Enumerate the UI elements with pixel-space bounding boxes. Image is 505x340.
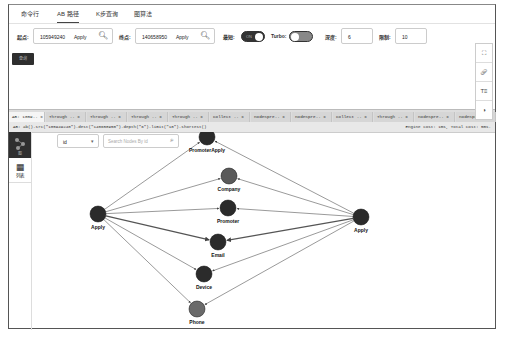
query-tab[interactable]: Through .. x xyxy=(169,112,209,122)
tab-ab-path[interactable]: AB 路径 xyxy=(57,9,79,23)
start-label: 起点: xyxy=(17,33,29,40)
turbo-toggle[interactable] xyxy=(289,31,313,42)
end-label: 终点: xyxy=(119,33,131,40)
graph-svg[interactable]: ApplyApplyPromoterApplyCompanyPromoterEm… xyxy=(31,132,493,330)
snapshot-icon[interactable]: ◑ xyxy=(476,101,492,119)
graph-canvas[interactable]: ApplyApplyPromoterApplyCompanyPromoterEm… xyxy=(31,132,493,334)
sidebar-item-table[interactable]: ▦ 列表 xyxy=(9,160,31,183)
tab-k-step-query[interactable]: K步查询 xyxy=(96,9,118,18)
graph-edge[interactable] xyxy=(106,208,219,213)
query-tab[interactable]: Through .. x xyxy=(46,112,86,122)
graph-edge[interactable] xyxy=(105,142,200,209)
query-tab[interactable]: Collect .. x xyxy=(333,112,373,122)
query-tab[interactable]: nodeSpre.. x xyxy=(415,112,455,122)
svg-text:Promoter: Promoter xyxy=(217,218,239,224)
query-form: 起点: 105949240 Apply 🔍︎ 终点: 140658950 App… xyxy=(9,27,495,47)
app-window: 命令行 AB 路径 K步查询 图算法 起点: 105949240 Apply 🔍… xyxy=(8,4,496,329)
search-icon[interactable]: ⌕ xyxy=(170,136,174,144)
graph-edge[interactable] xyxy=(238,179,354,215)
toggle-knob xyxy=(291,33,299,41)
turbo-label: Turbo: xyxy=(271,33,286,39)
toggle-knob xyxy=(255,33,263,41)
graph-edge[interactable] xyxy=(106,179,221,212)
shortest-label: 最短: xyxy=(223,33,235,40)
graph-node-device[interactable]: Device xyxy=(196,266,212,290)
svg-text:图: 图 xyxy=(18,150,22,156)
search-icon[interactable]: 🔍︎ xyxy=(200,31,210,40)
node-search-input[interactable]: Search Nodes By id ⌕ xyxy=(103,134,179,148)
limit-label: 限制: xyxy=(379,33,391,40)
graph-edge[interactable] xyxy=(212,220,353,271)
depth-label: 深度: xyxy=(325,33,337,40)
view-sidebar: 图 ▦ 列表 xyxy=(9,132,32,330)
svg-text:Company: Company xyxy=(218,186,241,192)
svg-text:Phone: Phone xyxy=(189,319,204,325)
node-field-select[interactable]: id ▾ xyxy=(57,134,99,148)
shortest-toggle[interactable]: ON xyxy=(241,31,265,42)
svg-text:Device: Device xyxy=(196,284,212,290)
svg-text:PromoterApply: PromoterApply xyxy=(189,147,225,153)
run-query-button[interactable]: 查询 xyxy=(12,53,34,65)
graph-node-apply[interactable]: Apply xyxy=(90,206,106,230)
end-value: 140658950 xyxy=(142,34,167,40)
tab-command-line[interactable]: 命令行 xyxy=(21,9,39,18)
end-node-input[interactable]: 140658950 Apply 🔍︎ xyxy=(135,28,215,44)
depth-value: 6 xyxy=(348,34,351,40)
graph-node-apply[interactable]: Apply xyxy=(353,209,369,233)
start-value: 105949240 xyxy=(40,34,65,40)
end-apply-label: Apply xyxy=(176,34,189,40)
query-tab[interactable]: nodeSpre.. x xyxy=(251,112,291,122)
depth-input[interactable]: 6 xyxy=(341,28,373,44)
query-tab[interactable]: Through .. x xyxy=(128,112,168,122)
start-apply-label: Apply xyxy=(74,34,87,40)
graph-node-promoter[interactable]: Promoter xyxy=(217,200,239,224)
graph-edge[interactable] xyxy=(205,221,354,305)
top-navigation: 命令行 AB 路径 K步查询 图算法 xyxy=(9,5,495,24)
table-icon: ▦ xyxy=(9,162,31,172)
graph-node-promoterapply[interactable]: PromoterApply xyxy=(189,132,225,153)
query-tab[interactable]: Through .. x xyxy=(87,112,127,122)
query-tab[interactable]: Collect .. x xyxy=(210,112,250,122)
graph-node-email[interactable]: Email xyxy=(210,234,226,258)
search-placeholder: Search Nodes By id xyxy=(108,139,148,144)
link-icon[interactable]: 🔗︎ xyxy=(476,63,492,82)
select-value: id xyxy=(63,139,67,145)
sidebar-item-label: 列表 xyxy=(9,172,31,178)
query-tab[interactable]: AB: 1059.. x xyxy=(9,112,45,122)
limit-input[interactable]: 10 xyxy=(395,28,427,44)
graph-icon: 图 xyxy=(9,132,31,158)
sidebar-item-graph[interactable]: 图 xyxy=(9,132,31,158)
text-icon[interactable]: T≡ xyxy=(476,82,492,101)
search-icon[interactable]: 🔍︎ xyxy=(98,31,108,40)
cost-text: Engine cost: 1ms, Total cost: 5ms. xyxy=(406,122,491,132)
query-tabs: AB: 1059.. x Through .. x Through .. x T… xyxy=(9,109,495,123)
graph-node-phone[interactable]: Phone xyxy=(189,301,205,325)
svg-text:Apply: Apply xyxy=(91,224,105,230)
tab-graph-algorithm[interactable]: 图算法 xyxy=(134,9,152,18)
query-text: AB: ab().src("105949240").dest("14065895… xyxy=(13,122,207,132)
graph-tools: ⛶ 🔗︎ T≡ ◑ xyxy=(475,43,493,120)
query-tab[interactable]: Through .. x xyxy=(374,112,414,122)
graph-edge[interactable] xyxy=(237,209,353,217)
chevron-down-icon: ▾ xyxy=(91,138,94,144)
limit-value: 10 xyxy=(402,34,408,40)
svg-text:Apply: Apply xyxy=(354,227,368,233)
graph-node-company[interactable]: Company xyxy=(218,168,241,192)
graph-edge[interactable] xyxy=(227,218,353,240)
svg-text:Email: Email xyxy=(211,252,225,258)
fullscreen-icon[interactable]: ⛶ xyxy=(476,44,492,63)
toggle-text: ON xyxy=(246,34,252,39)
query-tab[interactable]: nodeSpre.. x xyxy=(292,112,332,122)
start-node-input[interactable]: 105949240 Apply 🔍︎ xyxy=(33,28,113,44)
